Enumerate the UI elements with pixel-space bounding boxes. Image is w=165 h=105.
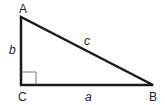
side-label-b: b: [9, 43, 16, 57]
side-label-a: a: [85, 90, 92, 104]
vertex-label-c: C: [18, 90, 27, 104]
triangle-shape: [21, 17, 153, 85]
side-label-c: c: [84, 34, 90, 48]
vertex-label-b: B: [149, 90, 157, 104]
right-triangle-diagram: A C B b c a: [0, 0, 165, 105]
right-angle-marker: [21, 72, 36, 85]
vertex-label-a: A: [19, 2, 27, 16]
